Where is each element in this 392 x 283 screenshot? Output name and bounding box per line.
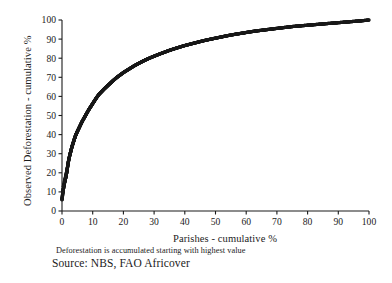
data-point-marker	[367, 18, 370, 21]
y-tick-group: 0102030405060708090100	[42, 14, 62, 216]
x-axis-title: Parishes - cumulative %	[0, 233, 392, 244]
x-tick-group: 0102030405060708090100	[60, 211, 377, 227]
data-point-marker	[65, 171, 69, 175]
y-tick-label: 0	[51, 205, 56, 216]
x-tick-label: 70	[272, 216, 282, 227]
data-series-markers	[60, 18, 371, 201]
x-tick-label: 80	[303, 216, 313, 227]
x-tick-label: 40	[180, 216, 190, 227]
x-tick-label: 30	[149, 216, 159, 227]
data-point-marker	[63, 176, 67, 180]
y-tick-label: 100	[42, 14, 57, 25]
x-tick-label: 100	[362, 216, 377, 227]
x-tick-label: 20	[119, 216, 129, 227]
y-tick-label: 20	[46, 167, 56, 178]
data-point-marker	[62, 184, 66, 188]
y-tick-label: 50	[46, 110, 56, 121]
x-tick-label: 60	[241, 216, 251, 227]
x-tick-label: 10	[88, 216, 98, 227]
y-tick-label: 60	[46, 91, 56, 102]
data-point-marker	[60, 198, 64, 202]
y-tick-label: 80	[46, 53, 56, 64]
y-tick-label: 70	[46, 72, 56, 83]
chart-note-caption: Deforestation is accumulated starting wi…	[56, 246, 245, 255]
axes-group	[62, 20, 369, 211]
x-tick-label: 50	[211, 216, 221, 227]
chart-figure: 0102030405060708090100 01020304050607080…	[0, 0, 392, 283]
x-tick-label: 0	[60, 216, 65, 227]
y-axis-title: Observed Deforestation - cumulative %	[22, 36, 33, 206]
data-point-marker	[63, 180, 67, 184]
x-tick-label: 90	[334, 216, 344, 227]
data-point-marker	[61, 190, 65, 194]
y-tick-label: 90	[46, 34, 56, 45]
y-tick-label: 10	[46, 186, 56, 197]
y-tick-label: 40	[46, 129, 56, 140]
y-tick-label: 30	[46, 148, 56, 159]
chart-source-caption: Source: NBS, FAO Africover	[52, 257, 190, 269]
